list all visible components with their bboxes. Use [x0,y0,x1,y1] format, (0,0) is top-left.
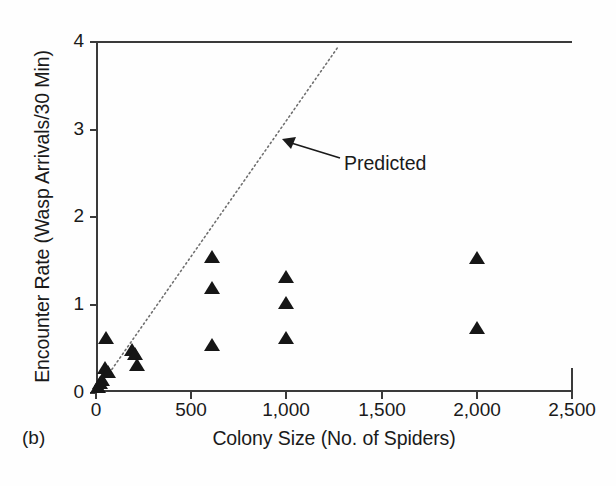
x-tick-label-1500: 1,500 [342,400,422,419]
x-axis-title: Colony Size (No. of Spiders) [96,427,572,450]
x-tick-label-2000: 2,000 [437,400,517,419]
x-tick-0 [95,392,97,399]
y-tick-3 [90,129,96,131]
y-tick-label-4: 4 [54,31,84,50]
x-tick-label-500: 500 [151,400,231,419]
data-point [98,331,114,344]
x-tick-label-2500: 2,500 [532,400,612,419]
predicted-annotation-label: Predicted [344,152,426,175]
data-point [100,365,116,378]
data-point [204,250,220,263]
y-tick-label-2: 2 [54,206,84,225]
y-tick-4 [90,41,96,43]
data-point [278,296,294,309]
x-tick-1500 [381,392,383,399]
data-point [204,338,220,351]
y-axis-title: Encounter Rate (Wasp Arrivals/30 Min) [31,27,54,407]
data-point [278,331,294,344]
y-tick-label-3: 3 [54,119,84,138]
panel-label: (b) [22,427,45,449]
plot-area [96,41,572,392]
y-tick-1 [90,304,96,306]
x-tick-500 [190,392,192,399]
data-point [204,281,220,294]
figure-panel: Predicted 0 1 2 3 4 0 500 1,000 1,500 2,… [0,0,616,486]
y-tick-label-0: 0 [54,382,84,401]
x-tick-label-0: 0 [56,400,136,419]
y-tick-label-1: 1 [54,294,84,313]
right-axis-spine [571,368,573,394]
y-tick-2 [90,216,96,218]
x-tick-1000 [285,392,287,399]
x-tick-label-1000: 1,000 [246,400,326,419]
x-tick-2000 [476,392,478,399]
data-point [469,321,485,334]
data-point [469,251,485,264]
x-tick-2500 [571,392,573,399]
data-point [129,358,145,371]
data-point [278,270,294,283]
